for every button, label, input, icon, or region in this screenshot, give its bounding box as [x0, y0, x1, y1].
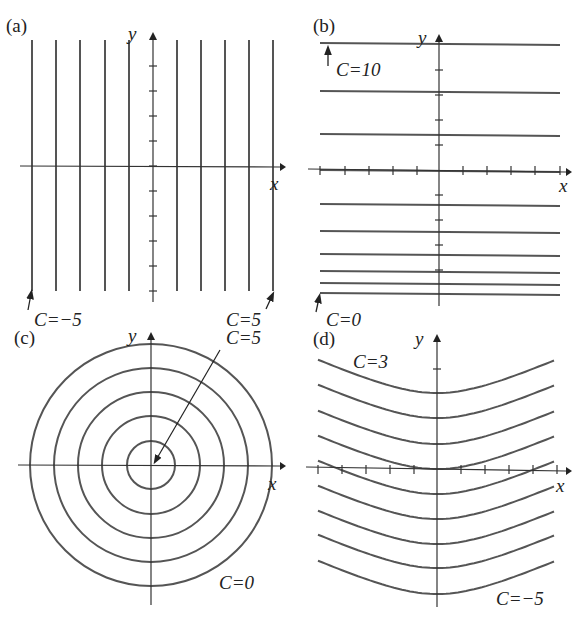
y-axis-arrow-icon — [149, 32, 157, 40]
panel-d-annotation-min: C=−5 — [496, 588, 544, 609]
panel-c: (c) x y C=5 C=0 — [14, 325, 286, 605]
level-curve — [318, 511, 554, 544]
arrow-icon — [316, 298, 319, 312]
panel-d-annotation-max: C=3 — [353, 351, 388, 372]
panel-a-annotation-min: C=−5 — [34, 309, 82, 330]
panel-a: (a) x y C=−5 C=5 — [6, 15, 286, 330]
level-curve — [318, 436, 554, 469]
level-line — [320, 204, 560, 206]
panel-a-y-label: y — [126, 23, 137, 44]
panel-c-annotation-min: C=0 — [219, 572, 254, 593]
panel-c-annotation-max: C=5 — [226, 327, 261, 348]
x-axis-arrow-icon — [280, 163, 286, 171]
panel-a-label: (a) — [6, 15, 27, 37]
level-line — [320, 231, 560, 233]
panel-c-y-label: y — [126, 325, 137, 346]
panel-d-y-label: y — [413, 328, 424, 349]
level-line — [320, 134, 560, 136]
arrow-icon — [156, 350, 220, 460]
panel-c-label: (c) — [14, 327, 35, 349]
panel-b: (b) x y C=10 C=0 — [308, 15, 572, 330]
arrow-icon — [266, 296, 272, 309]
arrow-icon — [28, 294, 31, 310]
level-curve — [318, 535, 554, 568]
y-axis-arrow-icon — [433, 334, 441, 342]
x-axis-arrow-icon — [566, 467, 572, 475]
level-curve — [318, 461, 554, 494]
panel-b-y-label: y — [416, 27, 427, 48]
level-curve — [318, 486, 554, 519]
level-line — [320, 283, 560, 285]
level-curves-figure: (a) x y C=−5 C=5 (b) x y C=10 C=0 (c) — [0, 0, 574, 624]
x-axis-arrow-icon — [280, 462, 286, 470]
panel-b-annotation-max: C=10 — [336, 59, 381, 80]
level-line — [320, 271, 560, 273]
panel-b-label: (b) — [313, 15, 335, 37]
panel-b-x-label: x — [558, 175, 568, 196]
level-line — [320, 43, 560, 45]
level-line — [320, 91, 560, 93]
y-axis-arrow-icon — [147, 332, 155, 340]
y-axis-arrow-icon — [435, 34, 443, 42]
panel-c-x-label: x — [267, 473, 277, 494]
panel-d-level-curves — [318, 360, 554, 594]
level-line — [320, 254, 560, 256]
panel-d-x-label: x — [555, 475, 565, 496]
panel-b-annotation-min: C=0 — [326, 309, 361, 330]
panel-d-label: (d) — [313, 328, 335, 350]
panel-c-x-axis — [18, 465, 280, 466]
level-curve — [318, 411, 554, 444]
level-line — [320, 293, 560, 295]
level-curve — [318, 385, 554, 418]
panel-d: (d) x y C=3 C=−5 — [306, 328, 572, 609]
panel-a-x-label: x — [269, 173, 279, 194]
